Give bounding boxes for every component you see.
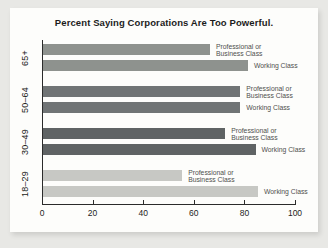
bar-series-label: Professional orBusiness Class xyxy=(216,42,262,56)
age-group-label: 18–29 xyxy=(20,170,30,196)
bar xyxy=(43,44,210,55)
chart-panel: Percent Saying Corporations Are Too Powe… xyxy=(10,8,318,232)
bar xyxy=(43,128,225,139)
x-axis-tick-label: 100 xyxy=(288,208,302,218)
bar xyxy=(43,144,256,155)
age-group-label: 30–49 xyxy=(20,128,30,154)
bar-series-label: Working Class xyxy=(264,188,308,195)
x-axis-tick xyxy=(194,200,195,204)
x-axis-tick-label: 40 xyxy=(138,208,147,218)
x-axis-tick-label: 20 xyxy=(88,208,97,218)
age-group-label: 50–64 xyxy=(20,86,30,112)
x-axis-tick xyxy=(244,200,245,204)
bar-series-label: Working Class xyxy=(262,146,306,153)
bar xyxy=(43,86,240,97)
x-axis-tick xyxy=(93,200,94,204)
bar xyxy=(43,186,258,197)
bar-series-label: Professional orBusiness Class xyxy=(231,126,277,140)
bar xyxy=(43,170,182,181)
x-axis-tick-label: 80 xyxy=(240,208,249,218)
bar-series-label: Working Class xyxy=(246,104,290,111)
x-axis-tick-label: 60 xyxy=(189,208,198,218)
screenshot-root: { "page": { "background": "#e8e8e5", "pa… xyxy=(0,0,328,248)
bar-series-label: Professional orBusiness Class xyxy=(188,168,234,182)
x-axis-line xyxy=(42,204,296,205)
x-axis-tick xyxy=(143,200,144,204)
bar-chart-plot: 02040608010065+Professional orBusiness C… xyxy=(10,8,318,232)
bar xyxy=(43,102,240,113)
x-axis-tick-label: 0 xyxy=(40,208,45,218)
bar-series-label: Professional orBusiness Class xyxy=(246,84,292,98)
bar-series-label: Working Class xyxy=(254,62,298,69)
bar xyxy=(43,60,248,71)
age-group-label: 65+ xyxy=(20,50,30,66)
x-axis-tick xyxy=(295,200,296,204)
